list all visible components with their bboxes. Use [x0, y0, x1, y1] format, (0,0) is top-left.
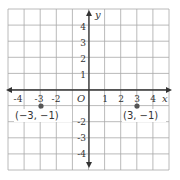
y-tick: 1	[80, 70, 86, 80]
x-tick: 4	[150, 94, 156, 104]
y-axis-arrow-up-icon	[86, 10, 92, 16]
point-marker	[134, 103, 139, 108]
x-axis-arrow-left-icon	[6, 87, 12, 93]
x-tick: 3	[134, 94, 140, 104]
y-axis-label: y	[94, 9, 101, 20]
x-tick: 1	[102, 94, 108, 104]
origin-label: O	[77, 93, 85, 104]
y-tick: 2	[80, 54, 86, 64]
axes	[6, 10, 172, 168]
y-axis-arrow-down-icon	[86, 162, 92, 168]
x-tick: -4	[14, 94, 23, 104]
point-marker	[38, 103, 43, 108]
y-tick: 4	[80, 22, 86, 32]
point-label: (3, −1)	[123, 110, 158, 121]
x-tick: -3	[35, 94, 44, 104]
y-tick: -2	[77, 117, 86, 127]
y-tick: 3	[80, 38, 86, 48]
coordinate-plane: y x O -4 -3 -2 1 2 3 4 4 3 2 1 -2 -3 -4 …	[0, 0, 180, 180]
x-tick: 2	[118, 94, 124, 104]
x-tick: -2	[52, 94, 61, 104]
x-axis-label: x	[162, 93, 168, 104]
point-label: (−3, −1)	[15, 110, 59, 121]
y-tick: -3	[77, 133, 86, 143]
y-tick: -4	[77, 149, 86, 159]
